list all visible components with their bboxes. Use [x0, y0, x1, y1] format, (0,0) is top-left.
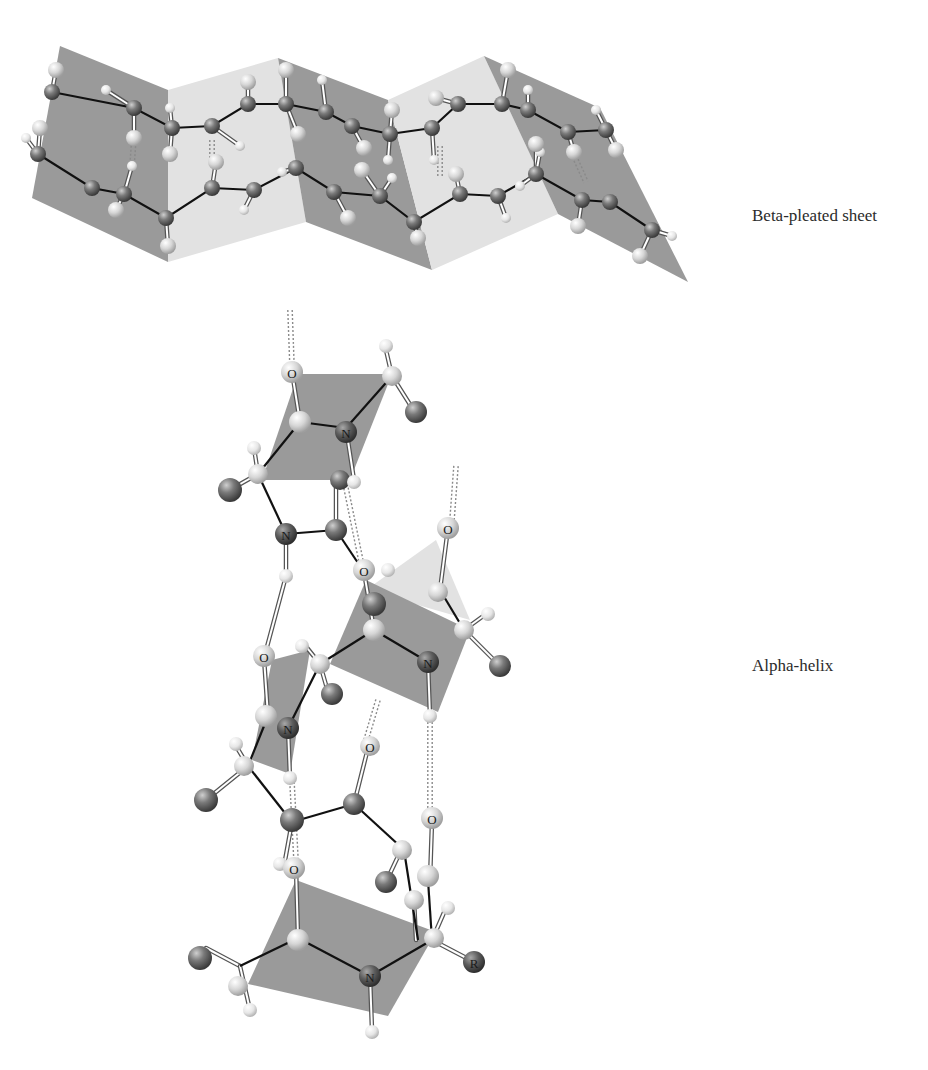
side-chain-atom [325, 519, 347, 541]
side-chain-atom [321, 683, 343, 705]
oxygen-atom [356, 140, 372, 156]
atom-symbol: O [359, 564, 368, 579]
hydrogen-atom [295, 639, 309, 653]
hydrogen-atom [381, 563, 395, 577]
side-chain-atom [343, 793, 365, 815]
carbon-atom [428, 582, 448, 602]
oxygen-atom [160, 238, 176, 254]
side-chain-atom [218, 478, 242, 502]
side-chain-atom [280, 808, 304, 832]
oxygen-atom [500, 62, 516, 78]
oxygen-atom [240, 74, 256, 90]
oxygen-atom [632, 248, 648, 264]
carbon-atom [204, 118, 220, 134]
carbon-atom [452, 186, 468, 202]
hydrogen-atom [283, 771, 297, 785]
carbon-atom [326, 184, 342, 200]
carbon-atom [424, 120, 440, 136]
hydrogen-atom [523, 85, 533, 95]
hydrogen-atom [101, 85, 111, 95]
carbon-atom [644, 222, 660, 238]
carbon-atom [424, 928, 444, 948]
hydrogen-atom [387, 173, 397, 183]
carbon-atom [344, 118, 360, 134]
hydrogen-atom [21, 133, 31, 143]
hydrogen-atom [229, 737, 243, 751]
carbon-atom [248, 464, 268, 484]
atom-symbol: O [365, 740, 374, 755]
oxygen-atom [290, 126, 306, 142]
hydrogen-atom [279, 569, 293, 583]
oxygen-atom [570, 218, 586, 234]
hydrogen-atom [383, 155, 393, 165]
alpha-helix-label: Alpha-helix [752, 656, 833, 676]
carbon-atom [454, 620, 474, 640]
carbon-atom [126, 100, 142, 116]
oxygen-atom [566, 144, 582, 160]
carbon-atom [406, 214, 422, 230]
carbon-atom [246, 182, 262, 198]
oxygen-atom [162, 146, 178, 162]
carbon-atom [602, 194, 618, 210]
atom-symbol: O [427, 812, 436, 827]
carbon-atom [240, 96, 256, 112]
hydrogen-bond [364, 699, 376, 739]
atom-symbol: N [281, 528, 291, 543]
hydrogen-atom [277, 167, 287, 177]
hydrogen-atom [515, 181, 525, 191]
carbon-atom [158, 210, 174, 226]
oxygen-atom [278, 62, 294, 78]
carbon-atom [560, 124, 576, 140]
carbon-atom [164, 120, 180, 136]
oxygen-atom [608, 142, 624, 158]
oxygen-atom [32, 120, 48, 136]
hydrogen-atom [667, 231, 677, 241]
carbon-atom [494, 96, 510, 112]
beta-pleated-sheet-label: Beta-pleated sheet [752, 206, 877, 226]
carbon-atom [289, 411, 311, 433]
hydrogen-atom [347, 475, 361, 489]
carbon-atom [30, 146, 46, 162]
hydrogen-atom [441, 901, 455, 915]
hydrogen-atom [317, 75, 327, 85]
oxygen-atom [48, 62, 64, 78]
carbon-atom [288, 160, 304, 176]
hydrogen-atom [379, 339, 393, 353]
oxygen-atom [410, 230, 426, 246]
side-chain-atom [405, 401, 427, 423]
carbon-atom [84, 180, 100, 196]
carbon-atom [520, 102, 536, 118]
peptide-plane [262, 374, 392, 480]
carbon-atom [363, 619, 385, 641]
atom-symbol: N [283, 722, 293, 737]
carbon-atom [44, 84, 60, 100]
oxygen-atom [126, 130, 142, 146]
oxygen-atom [340, 210, 356, 226]
atom-symbol: O [443, 522, 452, 537]
atom-symbol: N [365, 970, 375, 985]
atom-symbol: O [289, 862, 298, 877]
carbon-atom [318, 104, 334, 120]
carbon-atom [116, 186, 132, 202]
hydrogen-bond [292, 310, 294, 366]
oxygen-atom [528, 136, 544, 152]
carbon-atom [490, 188, 506, 204]
side-chain-atom [194, 788, 218, 812]
carbon-atom [598, 122, 614, 138]
side-chain-atom [375, 871, 397, 893]
hydrogen-atom [429, 155, 439, 165]
carbon-atom [404, 890, 424, 910]
hydrogen-atom [423, 709, 437, 723]
figure-canvas: ONNOONONOOORN [0, 0, 928, 1070]
hydrogen-bond [368, 701, 380, 741]
hydrogen-atom [165, 103, 175, 113]
side-chain-atom [489, 655, 511, 677]
oxygen-atom [208, 154, 224, 170]
oxygen-atom [354, 162, 370, 178]
hydrogen-atom [239, 205, 249, 215]
side-chain-atom [362, 592, 386, 616]
carbon-atom [382, 366, 402, 386]
hydrogen-atom [591, 105, 601, 115]
oxygen-atom [108, 202, 124, 218]
carbon-atom [574, 192, 590, 208]
